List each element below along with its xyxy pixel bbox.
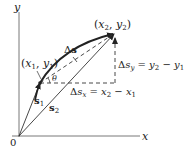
delta-s-label: Δs — [64, 44, 77, 55]
y-axis-label: y — [13, 1, 21, 14]
x-axis-label: x — [142, 130, 149, 143]
theta-arc — [48, 78, 50, 83]
delta-x-label: Δsx = x2 − x1 — [70, 86, 136, 99]
delta-y-label: Δsy = y2 − y1 — [118, 59, 184, 72]
chord-dashed — [40, 35, 112, 83]
p1-pointer — [37, 71, 41, 79]
p2-label: (x2, y2) — [94, 18, 131, 32]
displacement-diagram: y x 0 θ (x1, y1) (x2, y2) Δs s1 s2 Δsx =… — [0, 0, 187, 150]
theta-label: θ — [52, 74, 57, 83]
point-1 — [38, 81, 42, 85]
delta-s-tick — [73, 57, 77, 62]
origin-label: 0 — [10, 137, 16, 148]
s1-label: s1 — [34, 95, 44, 108]
p1-label: (x1, y1) — [21, 57, 58, 71]
s2-label: s2 — [49, 102, 59, 115]
